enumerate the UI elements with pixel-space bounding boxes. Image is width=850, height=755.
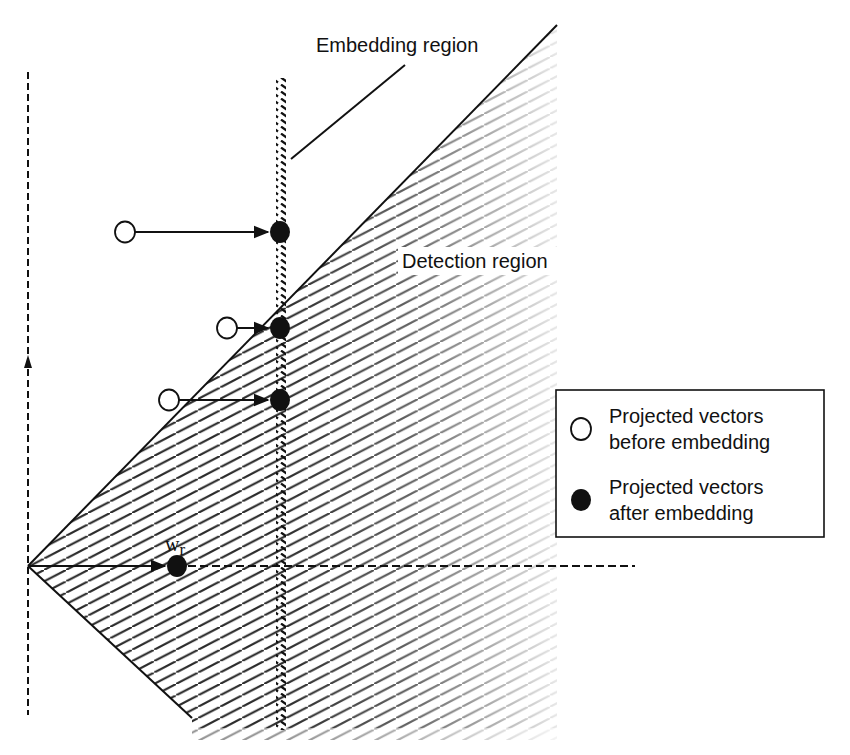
- vector-after-embedding: [270, 317, 290, 339]
- legend: Projected vectors before embedding Proje…: [556, 390, 824, 537]
- embedding-detection-diagram: Detection region Embedding region wr Pro…: [0, 0, 850, 755]
- legend-item-before-line1: Projected vectors: [609, 405, 764, 427]
- embedding-region-label: Embedding region: [316, 34, 478, 56]
- legend-filled-circle-icon: [571, 489, 591, 511]
- vector-after-embedding: [270, 389, 290, 411]
- vector-after-embedding: [270, 221, 290, 243]
- detection-region-label: Detection region: [402, 250, 548, 272]
- vector-before-embedding: [217, 318, 237, 339]
- legend-item-after-line1: Projected vectors: [609, 476, 764, 498]
- vector-before-embedding: [159, 390, 179, 411]
- legend-open-circle-icon: [571, 418, 591, 440]
- embedding-region-leader: [291, 65, 405, 159]
- legend-item-before-line2: before embedding: [609, 431, 770, 453]
- vector-before-embedding: [115, 222, 135, 243]
- detection-region-hatch: [0, 0, 850, 755]
- legend-item-after-line2: after embedding: [609, 502, 754, 524]
- axis-arrow-up-icon: [24, 355, 32, 368]
